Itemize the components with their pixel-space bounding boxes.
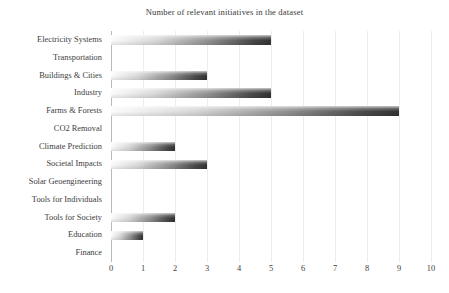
y-axis-label: CO2 Removal [0, 120, 106, 138]
bar [111, 213, 175, 222]
bar [111, 142, 175, 151]
bar-row [111, 67, 431, 85]
bar-row [111, 173, 431, 191]
bar-row [111, 226, 431, 244]
x-axis-tick-label: 7 [320, 264, 350, 273]
bar-row [111, 209, 431, 227]
bar-row [111, 191, 431, 209]
bar [111, 35, 271, 44]
bar-row [111, 155, 431, 173]
bar [111, 160, 207, 169]
y-axis-label: Tools for Society [0, 209, 106, 227]
bar [111, 71, 207, 80]
x-axis-tick-label: 4 [224, 264, 254, 273]
y-axis-label: Farms & Forests [0, 102, 106, 120]
bar-row [111, 244, 431, 262]
y-axis-label: Societal Impacts [0, 155, 106, 173]
x-axis-tick-label: 8 [352, 264, 382, 273]
bar [111, 88, 271, 97]
bar-row [111, 138, 431, 156]
y-axis-label: Industry [0, 84, 106, 102]
x-axis-tick-label: 1 [128, 264, 158, 273]
bar-row [111, 102, 431, 120]
bar-row [111, 49, 431, 67]
y-axis-label: Education [0, 226, 106, 244]
x-axis-tick-label: 9 [384, 264, 414, 273]
x-axis-tick-label: 6 [288, 264, 318, 273]
bar [111, 231, 143, 240]
chart-title: Number of relevant initiatives in the da… [0, 7, 449, 17]
bar [111, 106, 399, 115]
x-axis-tick-label: 5 [256, 264, 286, 273]
y-axis-label: Buildings & Cities [0, 67, 106, 85]
bar-row [111, 84, 431, 102]
x-axis-tick-label: 10 [416, 264, 446, 273]
gridline-10 [431, 31, 432, 262]
bar-row [111, 120, 431, 138]
y-axis-label: Tools for Individuals [0, 191, 106, 209]
y-axis-label: Electricity Systems [0, 31, 106, 49]
y-axis-category-labels: Electricity SystemsTransportationBuildin… [0, 31, 106, 262]
x-axis-tick-label: 0 [96, 264, 126, 273]
x-axis-tick-label: 3 [192, 264, 222, 273]
y-axis-label: Climate Prediction [0, 138, 106, 156]
bar-row [111, 31, 431, 49]
x-axis-tick-labels: 012345678910 [111, 264, 431, 280]
plot-area [111, 31, 431, 262]
y-axis-label: Finance [0, 244, 106, 262]
x-axis-tick-label: 2 [160, 264, 190, 273]
y-axis-label: Solar Geoengineering [0, 173, 106, 191]
bar-chart: Number of relevant initiatives in the da… [0, 0, 449, 293]
y-axis-label: Transportation [0, 49, 106, 67]
